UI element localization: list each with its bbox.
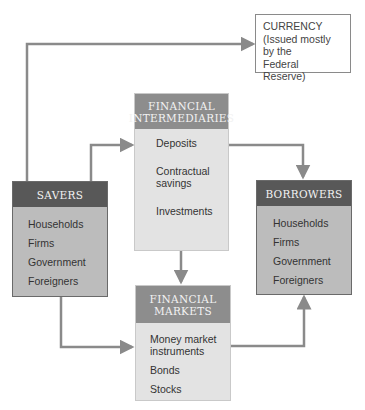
list-item: Money market instruments <box>150 333 226 357</box>
intermediaries-header: FINANCIAL INTERMEDIARIES <box>135 94 228 129</box>
arrow-intermediaries-to-borrowers <box>229 145 303 177</box>
list-item: Bonds <box>150 364 230 376</box>
list-item: Households <box>28 215 107 234</box>
header-line: FINANCIAL <box>148 100 215 112</box>
arrow-markets-to-borrowers <box>231 297 304 346</box>
list-item: Foreigners <box>28 272 107 291</box>
header-line: INTERMEDIARIES <box>129 112 235 124</box>
list-item: Firms <box>273 233 351 252</box>
list-item: Stocks <box>150 383 230 395</box>
header-line: MARKETS <box>154 305 212 317</box>
currency-box: CURRENCY (Issued mostly by the Federal R… <box>255 14 351 73</box>
markets-items: Money market instruments Bonds Stocks <box>136 323 230 395</box>
list-item: Government <box>28 253 107 272</box>
currency-title: CURRENCY <box>263 20 343 33</box>
currency-line: (Issued mostly <box>263 33 343 46</box>
financial-intermediaries-box: FINANCIAL INTERMEDIARIES Deposits Contra… <box>134 93 229 251</box>
savers-header: SAVERS <box>13 182 107 207</box>
savers-items: Households Firms Government Foreigners <box>13 207 107 291</box>
currency-line: Federal Reserve) <box>263 58 343 83</box>
intermediaries-items: Deposits Contractual savings Investments <box>135 129 228 217</box>
markets-header: FINANCIAL MARKETS <box>136 286 230 323</box>
list-item: Foreigners <box>273 271 351 290</box>
list-item: Government <box>273 252 351 271</box>
savers-box: SAVERS Households Firms Government Forei… <box>12 181 108 297</box>
arrow-savers-to-intermediaries <box>91 145 132 181</box>
list-item: Deposits <box>156 137 228 149</box>
list-item: Households <box>273 214 351 233</box>
list-item: Investments <box>156 205 228 217</box>
borrowers-items: Households Firms Government Foreigners <box>257 206 351 290</box>
list-item: Contractual savings <box>156 165 216 189</box>
borrowers-header: BORROWERS <box>257 181 351 206</box>
arrow-savers-to-markets <box>61 297 132 347</box>
currency-line: by the <box>263 45 343 58</box>
list-item: Firms <box>28 234 107 253</box>
borrowers-box: BORROWERS Households Firms Government Fo… <box>256 180 352 295</box>
financial-markets-box: FINANCIAL MARKETS Money market instrumen… <box>135 285 231 401</box>
header-line: FINANCIAL <box>150 293 217 305</box>
